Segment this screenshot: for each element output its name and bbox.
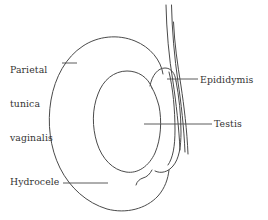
anatomy-diagram: Parietal tunica vaginalis Epididymis Tes… [0, 0, 268, 220]
epididymis-body-outline [155, 81, 181, 172]
epididymis-tail-notch [136, 170, 152, 185]
spermatic-cord-line-left [166, 5, 180, 150]
label-hydrocele: Hydrocele [10, 176, 59, 187]
label-parietal-tunica-vaginalis: Parietal tunica vaginalis [10, 41, 53, 166]
label-epididymis: Epididymis [200, 74, 253, 85]
label-parietal-line-2: tunica [10, 98, 53, 109]
label-parietal-line-1: Parietal [10, 64, 53, 75]
label-parietal-line-3: vaginalis [10, 132, 53, 143]
testis-outline [93, 71, 160, 172]
label-testis: Testis [214, 118, 242, 129]
spermatic-cord-group [166, 5, 188, 154]
